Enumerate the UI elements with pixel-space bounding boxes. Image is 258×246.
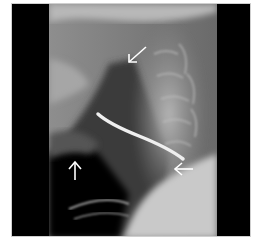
radiograph-frame [11, 3, 251, 237]
xray-image [49, 4, 217, 237]
xray-illustration [49, 4, 217, 237]
